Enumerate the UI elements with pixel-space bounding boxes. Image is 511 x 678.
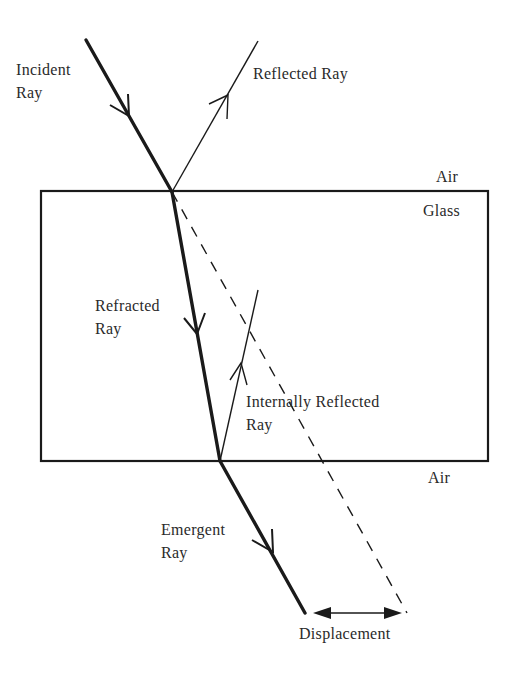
- internal-arrow-icon: [230, 363, 247, 385]
- reflected-label: Reflected Ray: [253, 65, 348, 83]
- reflected-ray: [172, 41, 258, 192]
- internal-reflected-label-2: Ray: [246, 416, 273, 434]
- refracted-label: Refracted: [95, 297, 160, 314]
- emergent-label: Emergent: [161, 521, 226, 539]
- glass-label: Glass: [423, 202, 460, 219]
- internally-reflected-ray: [220, 290, 258, 461]
- emergent-label-2: Ray: [161, 544, 188, 562]
- internal-reflected-label: Internally Reflected: [246, 393, 380, 411]
- displacement-label: Displacement: [299, 625, 391, 643]
- incident-label-2: Ray: [16, 84, 43, 102]
- refraction-diagram: Incident Ray Reflected Ray Air Glass Ref…: [0, 0, 511, 678]
- refracted-ray: [172, 192, 220, 461]
- air-top-label: Air: [436, 168, 459, 185]
- emergent-ray: [220, 461, 305, 613]
- air-bottom-label: Air: [428, 469, 451, 486]
- displacement-arrowhead-right-icon: [384, 607, 402, 619]
- displacement-arrowhead-left-icon: [313, 607, 331, 619]
- refracted-label-2: Ray: [95, 320, 122, 338]
- incident-label: Incident: [16, 61, 71, 78]
